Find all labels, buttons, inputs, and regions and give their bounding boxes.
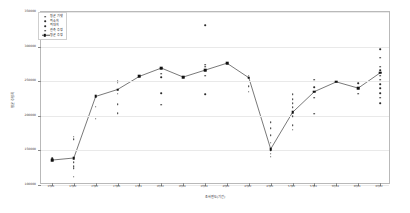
scatter-point [379, 83, 381, 85]
scatter-point [117, 82, 119, 84]
chart-legend: 평균 기댓최소치최대치관측 추정평균 추정 [38, 12, 67, 40]
x-axis-tick-label: 3차01 [135, 186, 142, 189]
legend-label: 평균 기댓 [50, 15, 63, 18]
y-axis-tick [38, 150, 41, 151]
x-axis-tick-label: 4차03 [266, 186, 273, 189]
x-axis-tick-label: 4차01 [222, 186, 229, 189]
x-axis-tick-label: 2차02 [91, 186, 98, 189]
scatter-point [161, 76, 163, 78]
scatter-point [117, 103, 119, 105]
scatter-point [204, 94, 206, 96]
scatter-point [292, 125, 294, 127]
scatter-point [73, 139, 75, 141]
scatter-point [292, 94, 294, 96]
mean-marker [226, 62, 229, 65]
mean-marker [335, 81, 338, 84]
scatter-point [270, 134, 272, 136]
scatter-point [292, 98, 294, 100]
x-axis-tick-label: 2차06 [113, 186, 120, 189]
scatter-point [270, 121, 272, 123]
mean-marker [313, 90, 316, 93]
scatter-point [270, 127, 272, 129]
scatter-point [73, 166, 75, 168]
scatter-point [270, 142, 272, 144]
scatter-point [379, 49, 381, 51]
mean-marker [116, 88, 119, 91]
scatter-point [248, 91, 250, 93]
scatter-point [357, 82, 359, 84]
x-axis-tick-label: 3차04 [179, 186, 186, 189]
legend-marker-icon [41, 33, 50, 38]
scatter-point [379, 66, 381, 68]
mean-marker [248, 76, 251, 79]
y-axis-tick [38, 116, 41, 117]
scatter-point [357, 93, 359, 95]
y-axis-tick-label: 200000 [0, 113, 36, 117]
scatter-point [248, 85, 250, 87]
mean-marker [138, 75, 141, 78]
legend-label: 관측 추정 [50, 29, 63, 32]
mean-line-path [41, 12, 391, 185]
y-axis-tick-label: 150000 [0, 147, 36, 151]
y-axis-tick-label: 300000 [0, 44, 36, 48]
scatter-point [379, 92, 381, 94]
mean-marker [182, 76, 185, 79]
scatter-point [292, 103, 294, 105]
scatter-point [73, 136, 75, 138]
y-axis-tick-label: 100000 [0, 182, 36, 186]
y-axis-tick-label: 350000 [0, 9, 36, 13]
x-axis-tick-label: 4차02 [244, 186, 251, 189]
scatter-point [314, 113, 316, 115]
mean-marker [291, 111, 294, 114]
scatter-point [95, 118, 97, 120]
scatter-point [314, 87, 316, 89]
scatter-point [270, 153, 272, 155]
mean-marker [204, 69, 207, 72]
gridline-horizontal [41, 12, 389, 13]
y-axis-tick [38, 185, 41, 186]
gridline-horizontal [41, 47, 389, 48]
x-axis-tick-label: 5차02 [288, 186, 295, 189]
y-axis-tick [38, 81, 41, 82]
scatter-point [204, 66, 206, 68]
scatter-point [204, 75, 206, 77]
legend-item[interactable]: 평균 추정 [41, 33, 63, 38]
plot-area [40, 11, 390, 184]
scatter-point [292, 116, 294, 118]
scatter-point [161, 104, 163, 106]
scatter-point [379, 75, 381, 77]
y-axis-tick [38, 47, 41, 48]
scatter-point [379, 97, 381, 99]
x-axis-tick-label: 3차02 [157, 186, 164, 189]
x-axis-tick-label: 6차02 [376, 186, 383, 189]
mean-marker [160, 67, 163, 70]
scatter-point [270, 156, 272, 158]
scatter-point [117, 80, 119, 82]
scatter-point [95, 106, 97, 108]
mean-marker [94, 95, 97, 98]
x-axis-tick-label: 1차02 [69, 186, 76, 189]
mean-marker [73, 157, 76, 160]
scatter-point [204, 24, 206, 26]
gridline-horizontal [41, 150, 389, 151]
mean-marker [357, 87, 360, 90]
chart-figure: 평균 추정치 조사연도(기간) 100000150000200000250000… [0, 0, 410, 213]
y-axis-tick-label: 250000 [0, 78, 36, 82]
scatter-point [379, 79, 381, 81]
scatter-point [314, 97, 316, 99]
scatter-point [379, 103, 381, 105]
scatter-point [204, 64, 206, 66]
scatter-point [379, 57, 381, 59]
scatter-point [314, 79, 316, 81]
scatter-point [379, 87, 381, 89]
x-axis-tick-label: 3차04 [201, 186, 208, 189]
scatter-point [73, 161, 75, 163]
x-axis-tick-label: 5차04 [332, 186, 339, 189]
x-axis-tick-label: 1차01 [47, 186, 54, 189]
scatter-point [292, 107, 294, 109]
scatter-point [73, 168, 75, 170]
legend-label: 평균 추정 [50, 34, 63, 37]
mean-marker [379, 72, 382, 75]
scatter-point [117, 112, 119, 114]
gridline-horizontal [41, 116, 389, 117]
